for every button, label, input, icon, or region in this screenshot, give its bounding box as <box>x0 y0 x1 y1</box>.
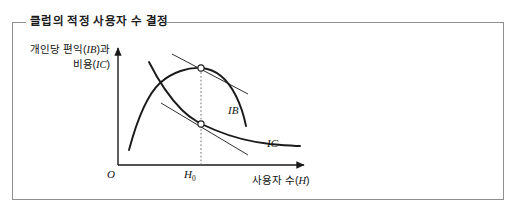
marker-upper <box>198 65 204 71</box>
marker-lower <box>198 121 204 127</box>
plot-area <box>0 0 525 218</box>
tangent-line-upper <box>172 54 248 94</box>
figure-container: 클럽의 적정 사용자 수 결정 개인당 편익(IB)과 비용(IC) 사용자 수… <box>0 0 525 218</box>
tangent-line-lower <box>161 103 248 155</box>
curve-ib <box>129 68 246 150</box>
